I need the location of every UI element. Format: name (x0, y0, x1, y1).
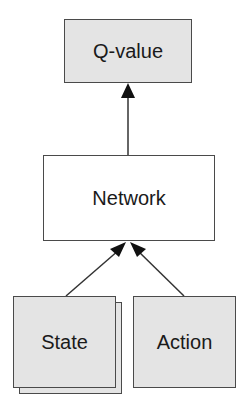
q-value-label: Q-value (93, 40, 163, 63)
state-label: State (41, 331, 88, 354)
edge-state-to-network (66, 242, 126, 296)
network-node: Network (43, 155, 215, 241)
action-node: Action (133, 296, 236, 388)
edge-network-to-qvalue (121, 83, 135, 156)
state-node: State (13, 296, 116, 388)
action-label: Action (157, 331, 213, 354)
network-label: Network (92, 187, 165, 210)
edge-action-to-network (130, 242, 184, 296)
arrowhead-icon (121, 83, 135, 98)
arrowhead-icon (130, 242, 146, 257)
q-value-node: Q-value (64, 19, 192, 83)
